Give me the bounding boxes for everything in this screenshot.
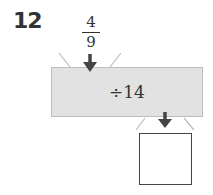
- arrows-and-funnels: [0, 0, 213, 195]
- arrow-down-icon: [158, 112, 172, 128]
- arrow-down-icon: [83, 54, 97, 72]
